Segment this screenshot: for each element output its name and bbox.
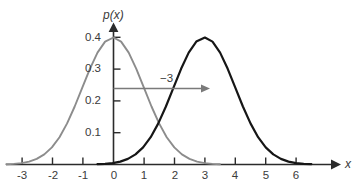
x-tick-label-1: 1 [141,170,147,182]
y-axis-label: p(x) [103,9,124,21]
x-tick-label-2: 2 [172,170,178,182]
x-tick-label-3: 3 [202,170,208,182]
x-tick-label--1: -1 [78,170,88,182]
x-tick-marks [22,158,296,165]
x-axis-arrowhead [331,160,341,170]
y-tick-label-0.2: 0.2 [85,95,101,107]
plot-canvas [0,0,359,186]
x-tick-label-0: 0 [111,170,117,182]
shift-annotation-label: −3 [160,73,173,85]
y-tick-marks [114,37,121,132]
x-tick-label-4: 4 [232,170,238,182]
x-axis-label: x [345,158,351,170]
y-tick-label-0.3: 0.3 [85,63,101,75]
x-tick-label--2: -2 [48,170,58,182]
x-tick-label-5: 5 [263,170,269,182]
y-axis-arrowhead [109,23,119,33]
y-tick-label-0.1: 0.1 [85,127,101,139]
x-tick-label--3: -3 [17,170,27,182]
y-tick-label-0.4: 0.4 [85,32,101,44]
gaussian-shift-figure: p(x) x −3 0.4 0.3 0.2 0.1 -3 -2 -1 0 1 2… [0,0,359,186]
x-tick-label-6: 6 [293,170,299,182]
shift-annotation-arrow [114,85,211,93]
